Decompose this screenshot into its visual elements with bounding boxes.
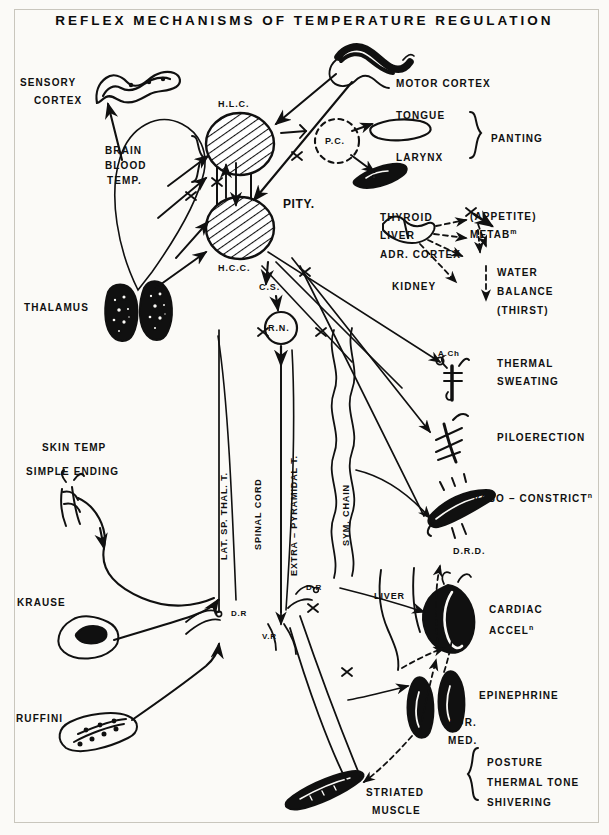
- cs-arrow-lower: [276, 296, 278, 310]
- label-pity: PITY.: [283, 198, 315, 210]
- label-dr-mid: D.R: [306, 582, 322, 594]
- label-adr-cortex: ADR. CORTEX: [380, 249, 461, 261]
- label-water-line2: BALANCE: [497, 286, 554, 298]
- tongue-glyph: [370, 119, 430, 140]
- striated-muscle-glyph: [286, 771, 364, 809]
- label-posture: POSTURE: [487, 757, 543, 769]
- label-cardiac-line2: ACCELn: [489, 622, 534, 637]
- label-brain-blood-line1: BRAIN: [105, 145, 142, 157]
- label-cs: C.S.: [259, 281, 280, 293]
- lat-sp-thal-tract: [218, 336, 236, 600]
- diagram-artwork: [0, 0, 609, 835]
- arrow-to-adrenal: [348, 686, 408, 700]
- arrow-pc-larynx: [351, 155, 374, 172]
- simple-ending-afferent: [78, 498, 214, 606]
- arrow-to-vaso: [356, 470, 430, 518]
- ruffini-afferent: [132, 644, 219, 720]
- label-brain-blood-line3: TEMP.: [107, 175, 142, 187]
- label-drd: D.R.D.: [453, 545, 485, 557]
- heart-glyph: [423, 572, 474, 653]
- spinal-tract-lines: [219, 330, 281, 612]
- label-striated-line1: STRIATED: [366, 787, 424, 799]
- label-adr-med-line2: MED.: [448, 735, 477, 747]
- label-water-line3: (THIRST): [497, 305, 549, 317]
- label-striated-line2: MUSCLE: [372, 805, 421, 817]
- vr-to-muscle-2: [300, 616, 360, 776]
- diag-5: [268, 252, 440, 362]
- label-rn: R.N.: [268, 322, 290, 334]
- sweat-gland-glyph: [436, 356, 469, 400]
- diag-4: [300, 266, 424, 516]
- label-spinal-cord: SPINAL CORD: [252, 478, 264, 550]
- label-appetite: (APPETITE): [470, 211, 537, 223]
- label-motor-cortex: MOTOR CORTEX: [396, 78, 491, 90]
- label-water-line1: WATER: [497, 267, 538, 279]
- piloerection-glyph: [436, 414, 468, 462]
- label-panting: PANTING: [491, 133, 543, 145]
- ruffini-glyph: [60, 713, 137, 751]
- arrow-in-hcc-2: [150, 252, 206, 292]
- label-ruffini: RUFFINI: [16, 713, 63, 725]
- posture-brace: [468, 748, 478, 800]
- label-krause: KRAUSE: [17, 597, 66, 609]
- label-simple-ending: SIMPLE ENDING: [26, 466, 119, 478]
- larynx-glyph: [354, 164, 407, 188]
- label-thermal-line2: SWEATING: [497, 376, 559, 388]
- hypothalamus-centers: [206, 113, 274, 259]
- label-dr-left: D.R: [231, 608, 247, 620]
- diagram-sheet: REFLEX MECHANISMS OF TEMPERATURE REGULAT…: [0, 0, 609, 835]
- label-larynx: LARYNX: [396, 152, 443, 164]
- hlc-pc-barb: [281, 131, 306, 133]
- label-shivering: SHIVERING: [487, 797, 552, 809]
- label-sensory-cortex-line2: CORTEX: [34, 95, 82, 107]
- label-lat-sp-thal-t: LAT. SP. THAL. T.: [218, 472, 230, 560]
- arrow-motor-to-hlc: [276, 74, 336, 124]
- sensory-cortex-glyph: [96, 72, 179, 103]
- label-thermal-line1: THERMAL: [497, 358, 554, 370]
- label-pc: P.C.: [325, 135, 345, 147]
- krause-afferent: [114, 600, 218, 640]
- label-liver-top: LIVER: [380, 230, 415, 242]
- label-vr: V.R: [262, 631, 277, 643]
- arrow-in-hlc-2: [158, 178, 206, 218]
- label-sensory-cortex-line1: SENSORY: [20, 77, 76, 89]
- label-adr-med-line1: ADR.: [448, 717, 477, 729]
- vasoconstriction-glyph: [428, 474, 495, 538]
- panting-brace: [470, 112, 481, 158]
- label-thalamus: THALAMUS: [24, 302, 89, 314]
- label-piloerection: PILOERECTION: [497, 432, 585, 444]
- label-hlc: H.L.C.: [218, 98, 249, 110]
- vr-to-muscle: [290, 628, 346, 780]
- label-thyroid: THYROID: [380, 212, 433, 224]
- label-extra-pyramidal-t: EXTRA – PYRAMIDAL T.: [288, 455, 300, 576]
- label-epinephrine: EPINEPHRINE: [479, 690, 559, 702]
- label-cardiac-line1: CARDIAC: [489, 604, 543, 616]
- label-hcc: H.C.C.: [218, 262, 250, 274]
- krause-glyph: [58, 616, 118, 658]
- label-liver-lower: LIVER: [374, 590, 405, 602]
- label-metab: METABm: [470, 226, 518, 241]
- liver-lower-glyph: [380, 568, 420, 670]
- label-ach: A.Ch: [438, 348, 459, 360]
- label-thermal-tone: THERMAL TONE: [487, 777, 579, 789]
- label-sym-chain: SYM. CHAIN: [340, 484, 352, 546]
- label-skin-temp: SKIN TEMP: [42, 442, 106, 454]
- label-tongue: TONGUE: [396, 110, 445, 122]
- label-kidney: KIDNEY: [392, 281, 436, 293]
- label-brain-blood-line2: BLOOD: [105, 160, 147, 172]
- simple-ending-glyph: [61, 470, 84, 526]
- label-vasoconstriction: VASO – CONSTRICTn: [473, 490, 593, 505]
